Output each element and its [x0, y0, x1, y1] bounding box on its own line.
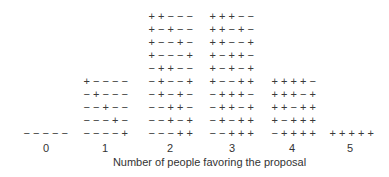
outcome-sequence: +++−+ [270, 88, 318, 101]
minus-symbol: − [185, 101, 195, 114]
minus-symbol: − [176, 75, 186, 88]
minus-symbol: − [111, 75, 121, 88]
minus-symbol: − [157, 49, 167, 62]
outcome-sequence: −++−+ [208, 101, 256, 114]
minus-symbol: − [280, 114, 290, 127]
minus-symbol: − [289, 101, 299, 114]
minus-symbol: − [147, 88, 157, 101]
plus-symbol: + [308, 127, 318, 140]
minus-symbol: − [120, 114, 130, 127]
plus-symbol: + [237, 23, 247, 36]
plus-symbol: + [147, 36, 157, 49]
minus-symbol: − [147, 101, 157, 114]
minus-symbol: − [82, 88, 92, 101]
plus-symbol: + [166, 101, 176, 114]
minus-symbol: − [185, 10, 195, 23]
plus-symbol: + [218, 88, 228, 101]
plus-symbol: + [120, 127, 130, 140]
plus-symbol: + [208, 75, 218, 88]
outcome-sequence: −−−++ [147, 127, 195, 140]
plus-symbol: + [308, 101, 318, 114]
plus-symbol: + [227, 49, 237, 62]
plus-symbol: + [328, 127, 338, 140]
minus-symbol: − [92, 127, 102, 140]
plus-symbol: + [227, 62, 237, 75]
outcome-sequence: −+−++ [208, 114, 256, 127]
column-5: +++++ [328, 127, 376, 140]
column-1: +−−−−−+−−−−−+−−−−−+−−−−−+ [82, 75, 130, 140]
outcome-sequence: −−+−+ [147, 114, 195, 127]
plus-symbol: + [157, 75, 167, 88]
plus-symbol: + [289, 114, 299, 127]
minus-symbol: − [185, 88, 195, 101]
plus-symbol: + [208, 10, 218, 23]
minus-symbol: − [120, 101, 130, 114]
plus-symbol: + [246, 75, 256, 88]
plus-symbol: + [218, 114, 228, 127]
x-tick-label: 3 [222, 142, 242, 154]
minus-symbol: − [176, 114, 186, 127]
minus-symbol: − [92, 114, 102, 127]
plus-symbol: + [208, 49, 218, 62]
outcome-sequence: −−−−− [22, 127, 70, 140]
column-0: −−−−− [22, 127, 70, 140]
plus-symbol: + [147, 23, 157, 36]
minus-symbol: − [92, 101, 102, 114]
minus-symbol: − [246, 49, 256, 62]
plus-symbol: + [157, 10, 167, 23]
minus-symbol: − [185, 23, 195, 36]
outcome-sequence: +−++− [208, 49, 256, 62]
minus-symbol: − [166, 49, 176, 62]
minus-symbol: − [120, 88, 130, 101]
plus-symbol: + [176, 101, 186, 114]
outcome-sequence: −++++ [270, 127, 318, 140]
outcome-sequence: ++−+− [208, 23, 256, 36]
plus-symbol: + [289, 75, 299, 88]
minus-symbol: − [166, 88, 176, 101]
outcome-sequence: −−−−+ [82, 127, 130, 140]
minus-symbol: − [237, 10, 247, 23]
outcome-sequence: −+−−+ [147, 75, 195, 88]
x-tick-label: 4 [282, 142, 302, 154]
plus-symbol: + [208, 23, 218, 36]
minus-symbol: − [270, 127, 280, 140]
plus-symbol: + [299, 101, 309, 114]
minus-symbol: − [176, 62, 186, 75]
x-tick-label: 0 [36, 142, 56, 154]
outcome-sequence: −+−+− [147, 88, 195, 101]
minus-symbol: − [82, 127, 92, 140]
minus-symbol: − [101, 75, 111, 88]
minus-symbol: − [147, 114, 157, 127]
outcome-sequence: −++−− [147, 62, 195, 75]
minus-symbol: − [308, 75, 318, 88]
plus-symbol: + [289, 88, 299, 101]
x-axis-label: Number of people favoring the proposal [0, 156, 389, 168]
plus-symbol: + [227, 88, 237, 101]
plus-symbol: + [208, 62, 218, 75]
outcome-sequence: +++−− [208, 10, 256, 23]
minus-symbol: − [111, 101, 121, 114]
plus-symbol: + [280, 75, 290, 88]
column-4: ++++−+++−+++−+++−+++−++++ [270, 75, 318, 140]
plus-symbol: + [299, 75, 309, 88]
plus-symbol: + [280, 127, 290, 140]
minus-symbol: − [157, 23, 167, 36]
plus-symbol: + [270, 101, 280, 114]
outcome-sequence: ++++− [270, 75, 318, 88]
plus-symbol: + [218, 23, 228, 36]
minus-symbol: − [101, 88, 111, 101]
outcome-sequence: +−+−− [147, 23, 195, 36]
plus-symbol: + [176, 88, 186, 101]
minus-symbol: − [92, 75, 102, 88]
outcome-sequence: −+−−− [82, 88, 130, 101]
minus-symbol: − [32, 127, 42, 140]
plus-symbol: + [308, 88, 318, 101]
plus-symbol: + [289, 127, 299, 140]
plus-symbol: + [237, 114, 247, 127]
plus-symbol: + [176, 127, 186, 140]
minus-symbol: − [185, 62, 195, 75]
minus-symbol: − [246, 10, 256, 23]
plus-symbol: + [227, 127, 237, 140]
plus-symbol: + [280, 101, 290, 114]
plus-symbol: + [218, 101, 228, 114]
